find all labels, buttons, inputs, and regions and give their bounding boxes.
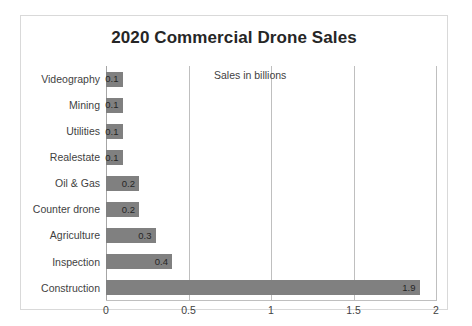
bar-series: Videography0.1Mining0.1Utilities0.1Reale… xyxy=(106,66,436,301)
bar-value-label: 0.3 xyxy=(138,231,155,241)
x-tick-label: 1 xyxy=(268,304,274,316)
category-label: Utilities xyxy=(66,126,100,137)
bar-value-label: 0.2 xyxy=(122,205,139,215)
bar[interactable]: 0.2 xyxy=(106,176,139,191)
bar-row: Realestate0.1 xyxy=(106,144,436,170)
category-label: Construction xyxy=(41,283,100,294)
category-label: Oil & Gas xyxy=(55,178,100,189)
chart-frame: 2020 Commercial Drone Sales Sales in bil… xyxy=(20,15,448,310)
bar[interactable]: 0.1 xyxy=(106,72,123,87)
bar-row: Utilities0.1 xyxy=(106,118,436,144)
bar-row: Mining0.1 xyxy=(106,92,436,118)
bar-value-label: 0.2 xyxy=(122,179,139,189)
bar-value-label: 0.4 xyxy=(155,257,172,267)
category-label: Inspection xyxy=(52,257,100,268)
bar-row: Oil & Gas0.2 xyxy=(106,170,436,196)
bar-row: Videography0.1 xyxy=(106,66,436,92)
x-tick-label: 1.5 xyxy=(346,304,361,316)
category-label: Videography xyxy=(41,74,100,85)
bar-value-label: 1.9 xyxy=(402,283,419,293)
category-label: Realestate xyxy=(50,152,100,163)
bar-row: Construction1.9 xyxy=(106,275,436,301)
category-label: Agriculture xyxy=(50,230,100,241)
category-label: Counter drone xyxy=(33,204,100,215)
bar[interactable]: 0.4 xyxy=(106,254,172,269)
gridline-2 xyxy=(436,66,437,301)
x-axis-tick-labels: 00.511.52 xyxy=(106,304,436,322)
bar-row: Counter drone0.2 xyxy=(106,197,436,223)
bar-value-label: 0.1 xyxy=(105,100,122,110)
bar-value-label: 0.1 xyxy=(105,74,122,84)
x-tick-label: 2 xyxy=(433,304,439,316)
category-label: Mining xyxy=(69,100,100,111)
bar[interactable]: 0.1 xyxy=(106,124,123,139)
bar[interactable]: 0.1 xyxy=(106,150,123,165)
bar-value-label: 0.1 xyxy=(105,127,122,137)
x-tick-label: 0.5 xyxy=(181,304,196,316)
bar-row: Agriculture0.3 xyxy=(106,223,436,249)
bar-row: Inspection0.4 xyxy=(106,249,436,275)
bar[interactable]: 0.3 xyxy=(106,228,156,243)
bar[interactable]: 0.1 xyxy=(106,98,123,113)
bar[interactable]: 0.2 xyxy=(106,202,139,217)
plot-area: Sales in billions Videography0.1Mining0.… xyxy=(106,66,436,301)
chart-title: 2020 Commercial Drone Sales xyxy=(21,28,447,48)
bar[interactable]: 1.9 xyxy=(106,280,420,295)
x-tick-label: 0 xyxy=(103,304,109,316)
bar-value-label: 0.1 xyxy=(105,153,122,163)
